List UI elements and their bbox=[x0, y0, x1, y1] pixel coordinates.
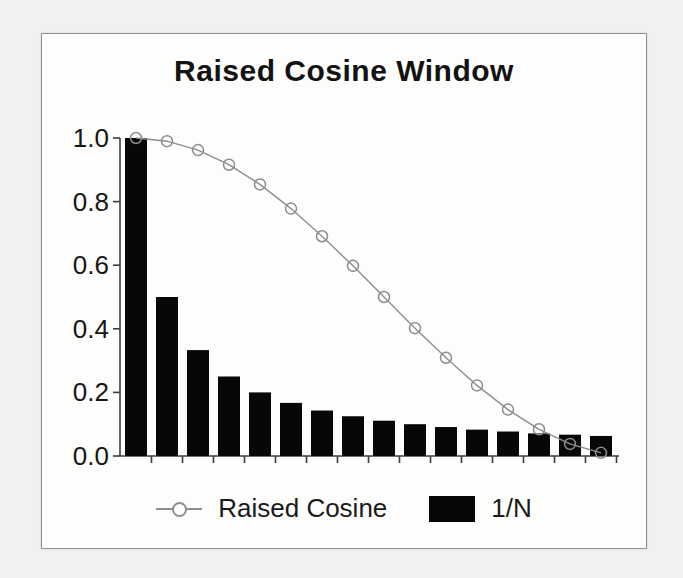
y-tick-label: 0.2 bbox=[73, 377, 109, 407]
bar-1-over-n bbox=[466, 430, 488, 456]
bar-1-over-n bbox=[187, 350, 209, 456]
y-tick-label: 0.0 bbox=[73, 441, 109, 471]
y-tick-label: 0.4 bbox=[73, 314, 109, 344]
bar-1-over-n bbox=[435, 427, 457, 456]
chart-frame: Raised Cosine Window 1.00.80.60.40.20.0 … bbox=[41, 33, 647, 549]
bar-1-over-n bbox=[342, 416, 364, 456]
bar-1-over-n bbox=[125, 138, 147, 456]
legend-circle-marker-icon bbox=[172, 502, 187, 517]
legend-label-1-over-n: 1/N bbox=[491, 493, 531, 524]
bar-1-over-n bbox=[497, 432, 519, 456]
bar-1-over-n bbox=[528, 433, 550, 456]
bar-1-over-n bbox=[404, 424, 426, 456]
legend-label-raised-cosine: Raised Cosine bbox=[218, 493, 387, 524]
screenshot-page: Raised Cosine Window 1.00.80.60.40.20.0 … bbox=[0, 0, 683, 578]
bar-1-over-n bbox=[373, 421, 395, 456]
bar-1-over-n bbox=[156, 297, 178, 456]
bar-1-over-n bbox=[280, 403, 302, 456]
bar-1-over-n bbox=[311, 411, 333, 456]
y-tick-label: 0.8 bbox=[73, 187, 109, 217]
bar-1-over-n bbox=[218, 377, 240, 457]
plot-area: 1.00.80.60.40.20.0 bbox=[42, 34, 646, 548]
legend: Raised Cosine 1/N bbox=[42, 493, 646, 524]
legend-bar-swatch-icon bbox=[429, 496, 475, 522]
bar-1-over-n bbox=[249, 392, 271, 456]
bar-1-over-n bbox=[590, 436, 612, 456]
y-tick-label: 0.6 bbox=[73, 250, 109, 280]
legend-line-marker-icon bbox=[156, 502, 202, 516]
y-tick-label: 1.0 bbox=[73, 123, 109, 153]
